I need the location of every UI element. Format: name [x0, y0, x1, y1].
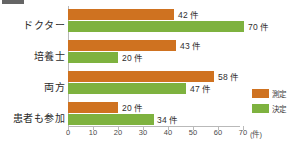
legend-swatch-icon: [252, 89, 269, 98]
chart-legend: 測定 決定: [252, 88, 300, 118]
bar-decide[interactable]: [68, 21, 244, 32]
bar-row: 43 件: [68, 40, 301, 51]
category-label: ドクター: [1, 17, 65, 32]
bar-measure[interactable]: [68, 102, 118, 113]
bar-decide[interactable]: [68, 52, 118, 63]
x-tick-label: 30: [139, 128, 147, 137]
bar-row: 42 件: [68, 9, 301, 20]
x-tick-label: 20: [114, 128, 122, 137]
bar-value-label: 20 件: [122, 101, 144, 113]
bar-row: 70 件: [68, 21, 301, 32]
bar-row: 20 件: [68, 52, 301, 63]
bar-value-label: 20 件: [122, 51, 144, 63]
legend-item-measure[interactable]: 測定: [252, 88, 300, 99]
legend-item-decide[interactable]: 決定: [252, 103, 300, 114]
bar-value-label: 34 件: [157, 113, 179, 125]
bar-group: 培養士 43 件 20 件: [68, 40, 301, 70]
x-tick-label: 50: [189, 128, 197, 137]
legend-swatch-icon: [252, 104, 269, 113]
bar-decide[interactable]: [68, 114, 154, 125]
legend-label: 測定: [272, 88, 286, 99]
x-tick-label: 0: [66, 128, 70, 137]
bar-measure[interactable]: [68, 9, 174, 20]
legend-label: 決定: [272, 103, 286, 114]
x-axis-tick-labels: 0 10 20 30 40 50 60 70 (件): [0, 128, 301, 142]
bar-measure[interactable]: [68, 71, 214, 82]
cropped-heading-fragment: [2, 0, 24, 4]
bar-value-label: 43 件: [180, 39, 202, 51]
bar-value-label: 47 件: [190, 82, 212, 94]
x-tick-label: 40: [164, 128, 172, 137]
bar-measure[interactable]: [68, 40, 176, 51]
bar-decide[interactable]: [68, 83, 186, 94]
category-label: 患者も参加: [1, 110, 65, 125]
bar-value-label: 70 件: [248, 20, 270, 32]
bar-value-label: 42 件: [178, 8, 200, 20]
x-tick-label: 60: [214, 128, 222, 137]
category-label: 両方: [1, 79, 65, 94]
bar-chart: ドクター 42 件 70 件 培養士 43 件: [0, 0, 301, 152]
x-tick-label: 70: [239, 128, 247, 137]
bar-group: ドクター 42 件 70 件: [68, 9, 301, 39]
category-label: 培養士: [1, 48, 65, 63]
x-axis-unit-label: (件): [250, 128, 262, 139]
bar-row: 58 件: [68, 71, 301, 82]
x-tick-label: 10: [89, 128, 97, 137]
bar-value-label: 58 件: [218, 70, 240, 82]
